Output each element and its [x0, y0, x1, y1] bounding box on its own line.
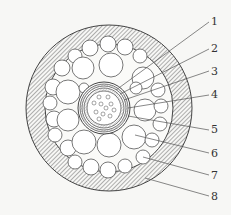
callout-7: 7	[211, 170, 218, 181]
callout-5: 5	[211, 124, 218, 135]
callout-4: 4	[211, 89, 218, 100]
callout-6: 6	[211, 148, 218, 159]
callout-8: 8	[211, 191, 218, 202]
callout-3: 3	[211, 66, 218, 77]
cable-cross-section-diagram	[0, 0, 231, 215]
core-unit	[78, 82, 130, 134]
callout-1: 1	[211, 16, 218, 27]
callout-2: 2	[211, 43, 218, 54]
